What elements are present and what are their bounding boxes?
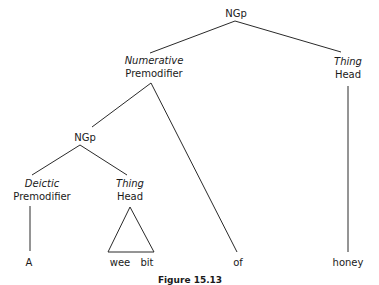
leaf-a: A xyxy=(26,257,33,269)
inner-ngp-label: NGp xyxy=(74,132,96,144)
thing-right-role-label: Head xyxy=(335,69,361,81)
numerative-function-label: Numerative xyxy=(125,55,184,67)
deictic-role-label: Premodifier xyxy=(13,191,70,203)
leaf-bit: bit xyxy=(140,257,153,269)
leaf-honey: honey xyxy=(333,257,364,269)
thing-inner-role-label: Head xyxy=(117,191,143,203)
branch-root-to-thing-head xyxy=(235,21,341,52)
triangle-wee-bit xyxy=(108,207,154,252)
thing-inner-function-label: Thing xyxy=(116,178,144,190)
branch-inner-ngp-to-thing xyxy=(80,145,127,175)
branch-numerative-to-inner-ngp xyxy=(92,83,151,127)
root-ngp-label: NGp xyxy=(225,8,247,20)
thing-right-function-label: Thing xyxy=(334,56,362,68)
leaf-of: of xyxy=(233,257,243,269)
numerative-role-label: Premodifier xyxy=(125,68,182,80)
branch-inner-ngp-to-deictic xyxy=(32,145,80,175)
deictic-function-label: Deictic xyxy=(25,178,59,190)
branch-numerative-to-of xyxy=(151,83,237,252)
figure-caption: Figure 15.13 xyxy=(158,275,222,285)
branch-root-to-numerative xyxy=(150,21,235,53)
leaf-wee: wee xyxy=(110,257,130,269)
